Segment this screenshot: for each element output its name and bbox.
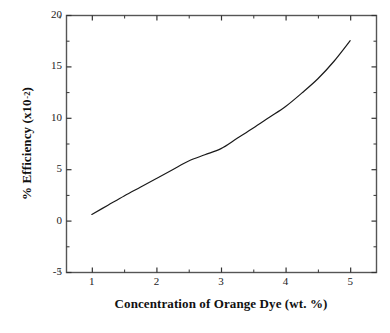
plot-frame	[67, 16, 377, 273]
chart-figure: % Efficiency (x10-2) Concentration of Or…	[0, 0, 390, 333]
plot-area	[0, 0, 390, 333]
